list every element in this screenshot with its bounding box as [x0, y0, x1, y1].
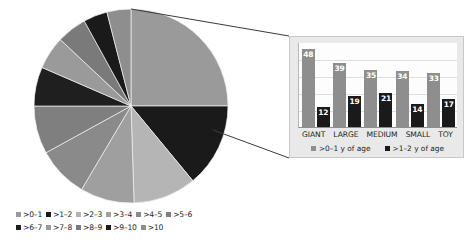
inset-bar-chart-panel: 48123919352134143317 GIANTLARGEMEDIUMSMA… [289, 36, 464, 158]
bar-group: 3521 [364, 43, 392, 127]
legend-label: >9–10 [113, 221, 137, 234]
bar: 19 [348, 96, 361, 127]
bar-value-label: 33 [429, 74, 439, 83]
bar: 14 [411, 104, 424, 127]
legend-swatch [46, 225, 51, 230]
bar-value-label: 17 [444, 100, 454, 109]
pie-legend-item: >10 [141, 221, 163, 234]
pie-legend-row-2: >6–7>7–8>8–9>9–10>10 [16, 221, 246, 234]
pie-legend-item: >4–5 [136, 208, 162, 221]
bar-value-label: 39 [335, 64, 345, 73]
bar: 33 [427, 73, 440, 127]
pie-legend-item: >0–1 [16, 208, 42, 221]
bar: 21 [379, 93, 392, 127]
bar-category-label: MEDIUM [367, 130, 398, 139]
bar: 48 [302, 49, 315, 128]
legend-swatch [311, 146, 316, 151]
legend-label: >1–2 [53, 208, 72, 221]
legend-label: >4–5 [143, 208, 162, 221]
legend-swatch [106, 212, 111, 217]
bar: 35 [364, 70, 377, 127]
legend-swatch [166, 212, 171, 217]
legend-label: >3–4 [113, 208, 132, 221]
bar: 39 [333, 63, 346, 127]
inset-legend-item: >1–2 y of age [385, 144, 445, 153]
bar-group: 3317 [427, 43, 455, 127]
pie-legend-row-1: >0–1>1–2>2–3>3–4>4–5>5–6 [16, 208, 246, 221]
legend-label: >0–1 y of age [319, 144, 371, 153]
bar-value-label: 14 [412, 105, 422, 114]
legend-label: >5–6 [173, 208, 192, 221]
legend-swatch [16, 225, 21, 230]
bar-category-label: SMALL [406, 130, 431, 139]
bar-group: 3414 [396, 43, 424, 127]
pie-slices [34, 9, 228, 203]
pie-legend-item: >5–6 [166, 208, 192, 221]
pie-legend-item: >2–3 [76, 208, 102, 221]
legend-label: >2–3 [83, 208, 102, 221]
bar: 12 [317, 107, 330, 127]
pie-legend-item: >1–2 [46, 208, 72, 221]
pie-legend-item: >3–4 [106, 208, 132, 221]
bar-group: 4812 [302, 43, 330, 127]
pie-chart-svg [33, 8, 229, 204]
bar-value-label: 12 [318, 108, 328, 117]
legend-swatch [106, 225, 111, 230]
bar-value-label: 35 [366, 71, 376, 80]
legend-swatch [136, 212, 141, 217]
pie-slice [131, 9, 228, 106]
bar-plot-area: 48123919352134143317 [298, 43, 457, 128]
inset-legend: >0–1 y of age>1–2 y of age [298, 144, 457, 153]
figure-container: 48123919352134143317 GIANTLARGEMEDIUMSMA… [0, 0, 469, 251]
inset-legend-item: >0–1 y of age [311, 144, 371, 153]
bar-group: 3919 [333, 43, 361, 127]
pie-legend-item: >7–8 [46, 221, 72, 234]
bar: 34 [396, 71, 409, 127]
bar-value-label: 19 [350, 97, 360, 106]
bar-value-label: 48 [303, 50, 313, 59]
legend-swatch [385, 146, 390, 151]
bar-category-label: TOY [438, 130, 453, 139]
legend-swatch [76, 212, 81, 217]
pie-legend: >0–1>1–2>2–3>3–4>4–5>5–6 >6–7>7–8>8–9>9–… [16, 208, 246, 234]
bar-category-labels: GIANTLARGEMEDIUMSMALLTOY [298, 130, 457, 139]
bar-groups: 48123919352134143317 [300, 43, 457, 127]
legend-label: >10 [148, 221, 163, 234]
pie-legend-item: >8–9 [76, 221, 102, 234]
legend-swatch [16, 212, 21, 217]
bar-category-label: LARGE [333, 130, 358, 139]
pie-legend-item: >6–7 [16, 221, 42, 234]
legend-label: >8–9 [83, 221, 102, 234]
legend-swatch [76, 225, 81, 230]
legend-label: >6–7 [23, 221, 42, 234]
bar-category-label: GIANT [302, 130, 325, 139]
pie-chart [33, 8, 229, 204]
legend-swatch [46, 212, 51, 217]
legend-label: >1–2 y of age [393, 144, 445, 153]
bar: 17 [442, 99, 455, 127]
legend-label: >0–1 [23, 208, 42, 221]
legend-label: >7–8 [53, 221, 72, 234]
bar-value-label: 21 [381, 94, 391, 103]
bar-value-label: 34 [397, 72, 407, 81]
pie-legend-item: >9–10 [106, 221, 137, 234]
legend-swatch [141, 225, 146, 230]
